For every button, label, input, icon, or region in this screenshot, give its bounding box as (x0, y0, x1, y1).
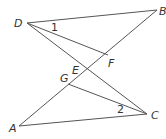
label-C: C (151, 109, 159, 122)
segment-DF (27, 23, 108, 55)
label-A: A (8, 122, 17, 135)
label-D: D (14, 17, 22, 30)
segment-GC (68, 84, 147, 114)
segment-AB (19, 10, 157, 126)
label-F: F (108, 57, 115, 70)
label-E: E (72, 64, 79, 77)
angle-label-2: 2 (117, 103, 124, 116)
segment-AC (19, 114, 147, 126)
segment-DB (27, 10, 157, 23)
geometry-diagram: D B A C F G E 1 2 (0, 0, 166, 139)
angle-label-1: 1 (51, 21, 58, 34)
label-B: B (159, 5, 166, 18)
label-G: G (60, 72, 69, 85)
